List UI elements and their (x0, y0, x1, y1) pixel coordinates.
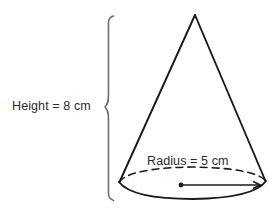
base-back-arc-dashed (119, 167, 266, 182)
diagram-canvas: Height = 8 cm Radius = 5 cm (0, 0, 280, 216)
radius-label: Radius = 5 cm (147, 154, 229, 168)
height-brace (105, 16, 114, 201)
base-front-arc (119, 181, 266, 199)
height-label: Height = 8 cm (12, 99, 91, 113)
base-center-dot (179, 183, 184, 188)
